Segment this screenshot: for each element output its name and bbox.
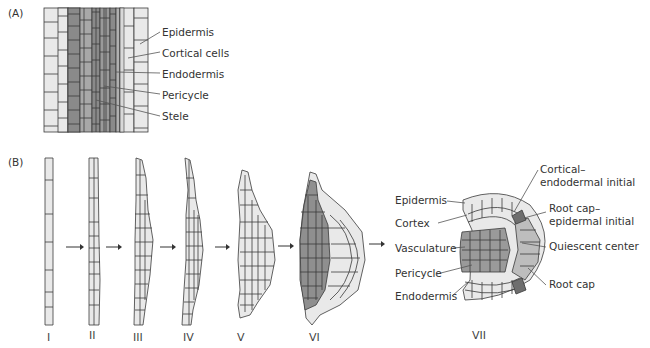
lateral-root-diagram: (A)	[0, 0, 650, 348]
stage-i-cells	[45, 158, 53, 325]
stage-numerals: I II III IV V VI VII	[47, 329, 486, 344]
stage-label-v: V	[237, 331, 245, 344]
stage-iii-cells	[134, 158, 153, 325]
stage-label-iii: III	[133, 331, 143, 344]
label-stele: Stele	[162, 110, 189, 122]
label-pericycle-vii: Pericycle	[395, 267, 442, 279]
label-epidermis: Epidermis	[162, 26, 214, 38]
root-longitudinal-section	[44, 8, 148, 132]
label-cortical-endodermal-initial-1: Cortical–	[540, 163, 585, 175]
stage-label-ii: II	[89, 329, 96, 342]
label-endodermis-vii: Endodermis	[395, 290, 457, 302]
label-quiescent-center: Quiescent center	[549, 240, 640, 252]
label-cortical-endodermal-initial-2: endodermal initial	[540, 176, 635, 188]
label-endodermis: Endodermis	[162, 68, 224, 80]
panel-b-label: (B)	[8, 156, 23, 168]
label-root-cap: Root cap	[549, 278, 595, 290]
label-root-cap-epidermal-initial-1: Root cap–	[549, 202, 600, 214]
label-cortical-cells: Cortical cells	[162, 47, 229, 59]
label-pericycle: Pericycle	[162, 89, 209, 101]
stage-label-vii: VII	[472, 329, 486, 342]
stage-iv-cells	[182, 158, 203, 325]
panel-a-label: (A)	[8, 7, 23, 19]
label-root-cap-epidermal-initial-2: epidermal initial	[549, 215, 634, 227]
label-cortex: Cortex	[395, 217, 430, 229]
label-vasculature: Vasculature	[395, 242, 456, 254]
stage-label-i: I	[47, 331, 50, 344]
stage-label-iv: IV	[183, 331, 194, 344]
stage-vi-cells	[300, 172, 365, 325]
label-epidermis-vii: Epidermis	[395, 194, 447, 206]
stage-label-vi: VI	[309, 331, 320, 344]
stage-v-cells	[238, 170, 275, 318]
stage-ii-cells	[89, 158, 100, 325]
stage-vii-cells	[460, 194, 545, 300]
